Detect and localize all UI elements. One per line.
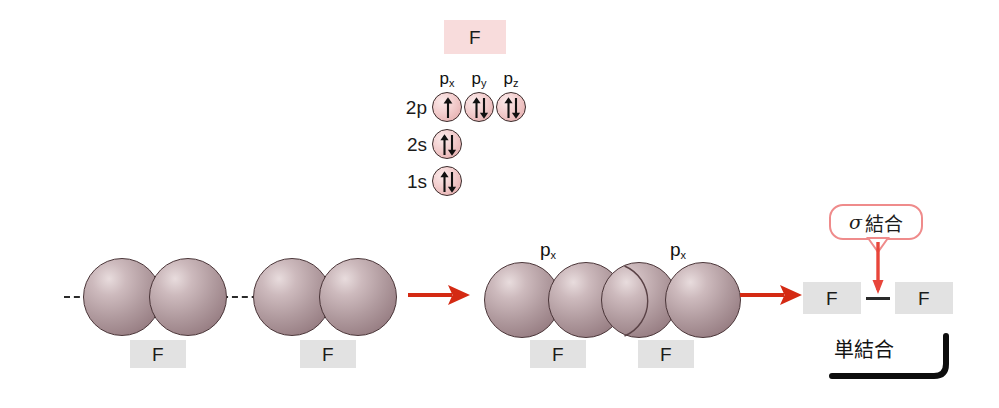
spin-up-arrow-icon — [433, 93, 463, 123]
p-orbital-lobe — [319, 258, 397, 336]
sigma-symbol: σ — [849, 211, 865, 233]
spin-pair-arrows-icon — [433, 167, 463, 197]
orbital-header-py: py — [463, 70, 495, 87]
spin-pair-arrows-icon — [497, 93, 527, 123]
atom-label-f-mid-1: F — [530, 340, 586, 368]
atom-label-f-left-1: F — [130, 340, 186, 368]
bracket-icon — [826, 334, 966, 382]
orbital-diagram: px py pz 2p — [395, 70, 525, 190]
atom-label-f-left-2: F — [300, 340, 356, 368]
orbital-row-label-1s: 1s — [395, 172, 427, 191]
orbital-2px — [432, 92, 462, 122]
spin-pair-arrows-icon — [465, 93, 495, 123]
overlap-lens-icon — [596, 258, 686, 344]
callout-tail-arrow-icon — [861, 238, 895, 294]
orbital-overlap-figure: F px py pz 2p — [0, 0, 999, 408]
orbital-header-pz: pz — [495, 70, 527, 87]
formula-atom-f-right: F — [895, 282, 953, 314]
right-arrow-icon — [740, 280, 802, 310]
orbital-row-label-2p: 2p — [395, 98, 427, 117]
orbital-header-px: px — [431, 70, 463, 87]
orbital-2s — [432, 129, 462, 159]
formula-atom-f-left: F — [803, 282, 861, 314]
orbital-2pz — [496, 92, 526, 122]
orbital-1s — [432, 166, 462, 196]
orbital-row-label-2s: 2s — [395, 135, 427, 154]
single-bond-bracket — [826, 334, 966, 382]
orbital-label-px-left: px — [523, 240, 573, 259]
right-arrow-icon — [408, 280, 470, 310]
sigma-overlap-region — [596, 258, 686, 344]
orbital-2py — [464, 92, 494, 122]
element-chip-fluorine: F — [444, 20, 506, 54]
atom-label-f-mid-2: F — [638, 340, 694, 368]
single-bond-line — [866, 297, 890, 300]
p-orbital-lobe — [149, 258, 227, 336]
callout-pointer — [861, 238, 895, 294]
sigma-bond-callout: σ 結合 — [829, 204, 923, 240]
spin-pair-arrows-icon — [433, 130, 463, 160]
transition-arrow-2 — [740, 280, 802, 310]
transition-arrow-1 — [408, 280, 470, 310]
sigma-callout-label: 結合 — [865, 209, 903, 236]
orbital-label-px-right: px — [653, 240, 703, 259]
